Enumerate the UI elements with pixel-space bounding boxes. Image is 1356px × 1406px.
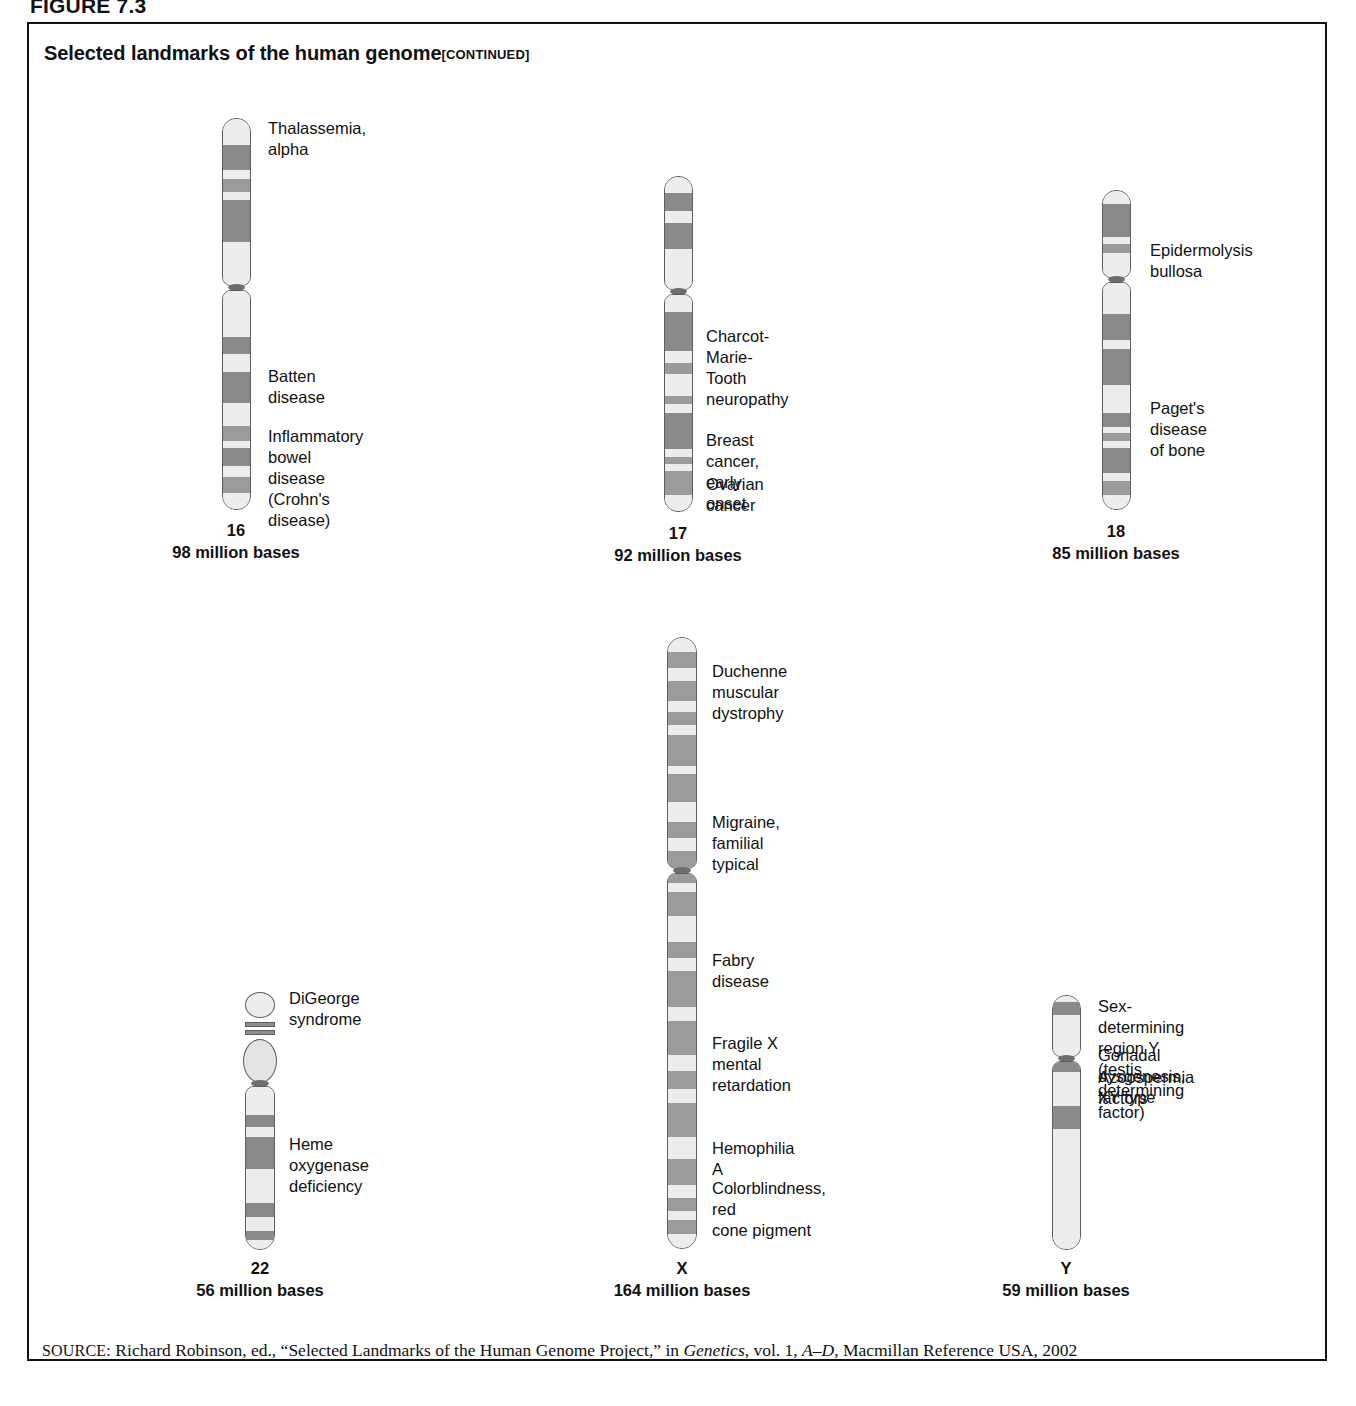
- band: [668, 1007, 696, 1021]
- band: [223, 354, 250, 372]
- band: [223, 403, 250, 426]
- band: [223, 448, 250, 466]
- chromosome-x-caption: X 164 million bases: [614, 1258, 751, 1302]
- band: [665, 495, 692, 512]
- band: [668, 735, 696, 766]
- band: [668, 1198, 696, 1211]
- band: [223, 426, 250, 441]
- chromosome-17-q-arm: [664, 294, 693, 512]
- band: [668, 802, 696, 822]
- band: [1053, 1072, 1080, 1106]
- band: [223, 119, 250, 145]
- band: [246, 1217, 274, 1231]
- band: [668, 1137, 696, 1159]
- chromosome-16-label-right-1: Batten disease: [268, 366, 325, 408]
- band: [665, 295, 692, 312]
- chromosome-22-caption: 22 56 million bases: [196, 1258, 323, 1302]
- band: [1103, 244, 1130, 253]
- band: [665, 449, 692, 457]
- band: [665, 193, 692, 211]
- chromosome-17-bases: 92 million bases: [614, 545, 741, 567]
- band: [1103, 441, 1130, 448]
- band: [1103, 237, 1130, 244]
- band: [223, 337, 250, 354]
- chromosome-x-label-right-1: Migraine, familial typical: [712, 812, 780, 875]
- band: [668, 766, 696, 774]
- band: [668, 652, 696, 668]
- chromosome-x-label-right-4: Hemophilia A: [712, 1138, 795, 1180]
- band: [668, 725, 696, 735]
- band: [665, 223, 692, 249]
- band: [1103, 349, 1130, 385]
- band: [668, 822, 696, 838]
- chromosome-17-label-right-0: Charcot-Marie-Tooth neuropathy: [706, 326, 789, 410]
- chromosome-16-label-right-2: Inflammatory bowel disease (Crohn's dise…: [268, 426, 363, 532]
- band: [668, 712, 696, 725]
- band: [1103, 481, 1130, 495]
- band: [1103, 413, 1130, 427]
- band: [668, 681, 696, 701]
- band: [668, 1103, 696, 1137]
- band: [223, 477, 250, 493]
- chromosome-17-caption: 17 92 million bases: [614, 523, 741, 567]
- band: [1053, 1062, 1080, 1072]
- band: [246, 1203, 274, 1217]
- band: [665, 249, 692, 290]
- band: [668, 1021, 696, 1055]
- source-prefix: SOURCE:: [42, 1342, 111, 1359]
- chromosome-18-q-arm: [1102, 282, 1131, 510]
- band: [1103, 191, 1130, 204]
- band: [223, 170, 250, 179]
- source-text-2: , vol. 1,: [745, 1340, 802, 1360]
- band: [665, 396, 692, 404]
- band: [668, 638, 696, 652]
- band: [1103, 314, 1130, 340]
- source-text-1: Richard Robinson, ed., “Selected Landmar…: [111, 1340, 683, 1360]
- band: [246, 1231, 274, 1240]
- chromosome-18-caption: 18 85 million bases: [1052, 521, 1179, 565]
- band: [665, 351, 692, 363]
- chromosome-22-label-right-1: Heme oxygenase deficiency: [289, 1134, 369, 1197]
- band: [665, 413, 692, 449]
- chromosome-16-bases: 98 million bases: [172, 542, 299, 564]
- chromosome-16-p-arm: [222, 118, 251, 286]
- band: [1103, 473, 1130, 481]
- chromosome-y-p-arm: [1052, 995, 1081, 1057]
- band: [1103, 385, 1130, 413]
- band: [246, 1240, 274, 1250]
- panel-title-text: Selected landmarks of the human genome: [44, 42, 441, 64]
- chromosome-y-q-arm: [1052, 1061, 1081, 1250]
- band: [668, 971, 696, 1007]
- chromosome-x-q-arm: [667, 873, 697, 1249]
- chromosome-y-bases: 59 million bases: [1002, 1280, 1129, 1302]
- band: [223, 372, 250, 403]
- chromosome-x-ideogram: [667, 637, 697, 1249]
- band: [1053, 1129, 1080, 1250]
- band: [665, 457, 692, 464]
- band: [668, 668, 696, 681]
- band: [246, 1169, 274, 1203]
- band: [665, 211, 692, 223]
- chromosome-y-number: Y: [1002, 1258, 1129, 1280]
- band: [668, 942, 696, 958]
- band: [246, 1127, 274, 1137]
- chromosome-y-caption: Y 59 million bases: [1002, 1258, 1129, 1302]
- chromosome-22-p-arm: [243, 1039, 277, 1083]
- chromosome-18-label-right-0: Epidermolysis bullosa: [1150, 240, 1253, 282]
- chromosome-22-satellite: [245, 992, 275, 1018]
- band: [223, 291, 250, 337]
- chromosome-17-ideogram: [664, 176, 693, 512]
- chromosome-16-number: 16: [172, 520, 299, 542]
- band: [246, 1087, 274, 1115]
- chromosome-18-ideogram: [1102, 190, 1131, 510]
- chromosome-22-bases: 56 million bases: [196, 1280, 323, 1302]
- chromosome-18-p-arm: [1102, 190, 1131, 278]
- panel-title: Selected landmarks of the human genome[C…: [44, 42, 530, 65]
- chromosome-17-label-right-2: Ovarian cancer: [706, 474, 764, 516]
- band: [668, 701, 696, 712]
- band: [223, 466, 250, 477]
- band: [665, 363, 692, 374]
- source-line: SOURCE: Richard Robinson, ed., “Selected…: [42, 1340, 1077, 1361]
- band: [223, 192, 250, 200]
- chromosome-18-label-right-1: Paget's disease of bone: [1150, 398, 1207, 461]
